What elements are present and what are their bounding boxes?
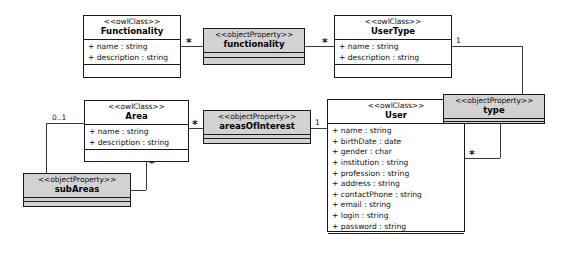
class-box-usertype[interactable]: <<owlClass>> UserType + name : string + …	[334, 15, 452, 78]
class-attributes-usertype: + name : string + description : string	[335, 40, 451, 65]
property-name: type	[447, 106, 541, 115]
class-operations-user	[328, 234, 464, 243]
attribute-row: + description : string	[339, 53, 451, 64]
attribute-row: + profession : string	[332, 169, 464, 180]
property-box-type[interactable]: <<objectProperty>> type	[443, 94, 545, 124]
class-operations-usertype	[335, 65, 451, 74]
property-stereotype: <<objectProperty>>	[207, 113, 307, 121]
class-operations-functionality	[84, 65, 180, 74]
class-name: Functionality	[87, 27, 177, 36]
attribute-row: + password : string	[332, 222, 464, 233]
class-box-area[interactable]: <<owlClass>> Area + name : string + desc…	[84, 100, 189, 162]
multiplicity-area-left: 0..1	[52, 114, 66, 122]
attribute-row: + gender : char	[332, 147, 464, 158]
multiplicity-functionality-prop-right: *	[322, 39, 328, 47]
property-operations-subareas	[24, 202, 130, 207]
attribute-row: + description : string	[89, 138, 188, 149]
attribute-row: + email : string	[332, 200, 464, 211]
class-operations-area	[85, 150, 188, 159]
attribute-row: + contactPhone : string	[332, 190, 464, 201]
connector-type-to-user-v	[500, 124, 501, 158]
attribute-row: + name : string	[332, 126, 464, 137]
multiplicity-area-right: *	[192, 121, 198, 129]
property-operations-areasofinterest	[204, 139, 310, 144]
class-header-usertype: <<owlClass>> UserType	[335, 16, 451, 40]
attribute-row: + name : string	[88, 42, 180, 53]
property-header-functionality: <<objectProperty>> functionality	[204, 29, 304, 53]
connector-usertype-to-type-v	[522, 46, 523, 94]
multiplicity-functionality-right: *	[186, 39, 192, 47]
property-stereotype: <<objectProperty>>	[207, 31, 301, 39]
property-name: functionality	[207, 40, 301, 49]
attribute-row: + description : string	[88, 53, 180, 64]
property-header-type: <<objectProperty>> type	[444, 95, 544, 119]
property-stereotype: <<objectProperty>>	[447, 97, 541, 105]
attribute-row: + name : string	[339, 42, 451, 53]
connector-usertype-to-type-h	[452, 46, 522, 47]
property-box-subareas[interactable]: <<objectProperty>> subAreas	[23, 173, 131, 207]
class-name: Area	[88, 112, 185, 121]
property-header-areasofinterest: <<objectProperty>> areasOfInterest	[204, 111, 310, 135]
attribute-row: + name : string	[89, 127, 188, 138]
class-name: UserType	[338, 27, 448, 36]
class-attributes-area: + name : string + description : string	[85, 125, 188, 150]
class-attributes-user: + name : string + birthDate : date + gen…	[328, 124, 464, 234]
property-name: areasOfInterest	[207, 122, 307, 131]
multiplicity-type-to-user: *	[469, 151, 475, 159]
attribute-row: + address : string	[332, 179, 464, 190]
connector-area-to-subareas-h	[131, 190, 146, 191]
class-attributes-functionality: + name : string + description : string	[84, 40, 180, 65]
connector-prop-to-usertype	[305, 46, 334, 47]
attribute-row: + institution : string	[332, 158, 464, 169]
property-header-subareas: <<objectProperty>> subAreas	[24, 174, 130, 198]
class-stereotype: <<owlClass>>	[338, 18, 448, 26]
connector-area-left-h	[46, 123, 84, 124]
property-operations-type	[444, 122, 544, 126]
attribute-row: + login : string	[332, 211, 464, 222]
class-name: User	[331, 111, 461, 120]
class-header-area: <<owlClass>> Area	[85, 101, 188, 125]
class-stereotype: <<owlClass>>	[331, 102, 461, 110]
connector-areasofinterest-to-user	[311, 128, 327, 129]
property-name: subAreas	[27, 185, 127, 194]
class-header-functionality: <<owlClass>> Functionality	[84, 16, 180, 40]
attribute-row: + birthDate : date	[332, 137, 464, 148]
uml-diagram-canvas: * * 1 * 0..1 * * 1 <<owlClass>> Function…	[0, 0, 571, 255]
property-stereotype: <<objectProperty>>	[27, 176, 127, 184]
connector-area-left-v	[46, 123, 47, 173]
property-box-areasofinterest[interactable]: <<objectProperty>> areasOfInterest	[203, 110, 311, 144]
class-stereotype: <<owlClass>>	[87, 18, 177, 26]
multiplicity-areasofinterest-right: 1	[315, 119, 320, 127]
class-stereotype: <<owlClass>>	[88, 103, 185, 111]
multiplicity-usertype-right: 1	[456, 37, 461, 45]
property-operations-functionality	[204, 58, 304, 64]
class-box-functionality[interactable]: <<owlClass>> Functionality + name : stri…	[83, 15, 181, 78]
property-box-functionality[interactable]: <<objectProperty>> functionality	[203, 28, 305, 65]
connector-functionality-to-prop	[181, 46, 203, 47]
